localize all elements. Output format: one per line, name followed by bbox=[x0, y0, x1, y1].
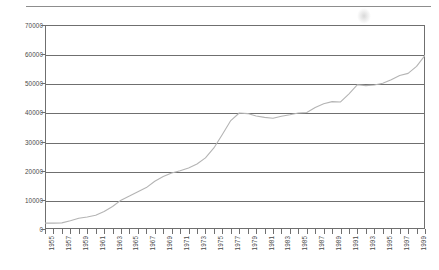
x-tick-1973 bbox=[197, 229, 198, 234]
y-axis: 010000200003000040000500006000070000 bbox=[0, 25, 43, 229]
x-tick-label-1999: 1999 bbox=[420, 236, 427, 250]
x-tick-label-1985: 1985 bbox=[301, 236, 308, 250]
x-tick-1986 bbox=[307, 229, 308, 234]
x-tick-1976 bbox=[222, 229, 223, 234]
x-tick-1975 bbox=[214, 229, 215, 234]
scan-artifact-smudge bbox=[357, 8, 371, 24]
x-tick-label-1955: 1955 bbox=[48, 236, 55, 250]
x-axis-labels: 1955195719591961196319651967196919711973… bbox=[45, 236, 426, 268]
x-tick-1984 bbox=[290, 229, 291, 234]
x-tick-2000 bbox=[425, 229, 426, 234]
x-tick-1955 bbox=[45, 229, 46, 234]
x-tick-1964 bbox=[121, 229, 122, 234]
x-tick-label-1975: 1975 bbox=[217, 236, 224, 250]
x-tick-label-1965: 1965 bbox=[132, 236, 139, 250]
x-tick-1983 bbox=[281, 229, 282, 234]
series-layer bbox=[45, 25, 425, 229]
x-tick-1958 bbox=[70, 229, 71, 234]
x-tick-1993 bbox=[366, 229, 367, 234]
x-tick-label-1997: 1997 bbox=[403, 236, 410, 250]
x-tick-1996 bbox=[391, 229, 392, 234]
x-tick-1956 bbox=[53, 229, 54, 234]
x-tick-label-1963: 1963 bbox=[116, 236, 123, 250]
x-tick-1961 bbox=[96, 229, 97, 234]
x-tick-1963 bbox=[113, 229, 114, 234]
x-tick-1992 bbox=[357, 229, 358, 234]
x-tick-1980 bbox=[256, 229, 257, 234]
x-tick-label-1991: 1991 bbox=[352, 236, 359, 250]
chart-page: 010000200003000040000500006000070000 195… bbox=[0, 0, 439, 270]
x-tick-label-1959: 1959 bbox=[82, 236, 89, 250]
x-tick-1970 bbox=[172, 229, 173, 234]
x-tick-label-1983: 1983 bbox=[284, 236, 291, 250]
x-tick-1965 bbox=[129, 229, 130, 234]
x-axis-ticks bbox=[45, 229, 426, 235]
x-tick-1971 bbox=[180, 229, 181, 234]
x-tick-1999 bbox=[417, 229, 418, 234]
x-tick-1990 bbox=[341, 229, 342, 234]
x-tick-1981 bbox=[265, 229, 266, 234]
x-tick-1989 bbox=[332, 229, 333, 234]
x-tick-1997 bbox=[400, 229, 401, 234]
line-series-1 bbox=[45, 55, 425, 223]
x-tick-label-1989: 1989 bbox=[335, 236, 342, 250]
x-tick-1966 bbox=[138, 229, 139, 234]
x-tick-1957 bbox=[62, 229, 63, 234]
x-tick-label-1987: 1987 bbox=[318, 236, 325, 250]
x-tick-1968 bbox=[155, 229, 156, 234]
x-tick-1962 bbox=[104, 229, 105, 234]
x-tick-1979 bbox=[248, 229, 249, 234]
x-tick-1969 bbox=[163, 229, 164, 234]
x-tick-label-1977: 1977 bbox=[234, 236, 241, 250]
x-tick-1972 bbox=[189, 229, 190, 234]
x-tick-label-1969: 1969 bbox=[166, 236, 173, 250]
x-tick-1995 bbox=[383, 229, 384, 234]
x-tick-1985 bbox=[298, 229, 299, 234]
x-tick-1998 bbox=[408, 229, 409, 234]
x-tick-1960 bbox=[87, 229, 88, 234]
x-tick-label-1979: 1979 bbox=[251, 236, 258, 250]
x-tick-1994 bbox=[374, 229, 375, 234]
x-tick-1982 bbox=[273, 229, 274, 234]
x-tick-label-1993: 1993 bbox=[369, 236, 376, 250]
x-tick-1959 bbox=[79, 229, 80, 234]
x-tick-1991 bbox=[349, 229, 350, 234]
page-header-rule bbox=[26, 6, 431, 7]
x-tick-label-1967: 1967 bbox=[149, 236, 156, 250]
x-tick-1967 bbox=[146, 229, 147, 234]
x-tick-label-1995: 1995 bbox=[386, 236, 393, 250]
x-tick-1974 bbox=[205, 229, 206, 234]
x-tick-1988 bbox=[324, 229, 325, 234]
x-tick-1978 bbox=[239, 229, 240, 234]
x-tick-label-1981: 1981 bbox=[268, 236, 275, 250]
x-tick-label-1961: 1961 bbox=[99, 236, 106, 250]
x-tick-label-1973: 1973 bbox=[200, 236, 207, 250]
x-tick-label-1971: 1971 bbox=[183, 236, 190, 250]
x-tick-1987 bbox=[315, 229, 316, 234]
x-tick-label-1957: 1957 bbox=[65, 236, 72, 250]
x-tick-1977 bbox=[231, 229, 232, 234]
